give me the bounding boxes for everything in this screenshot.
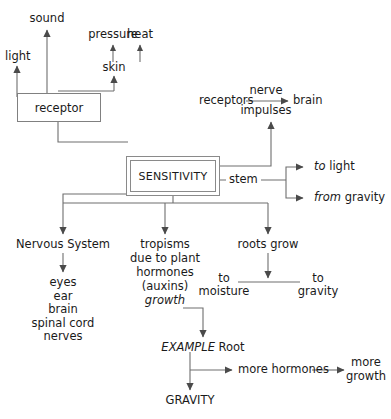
label-nerve: nerve — [250, 84, 283, 98]
label-nervous-parts: eyes ear brain spinal cord nerves — [3, 276, 123, 344]
label-skin: skin — [102, 61, 125, 75]
receptor-box: receptor — [17, 93, 101, 122]
to-light-rest: light — [329, 159, 355, 173]
label-heat: heat — [127, 28, 153, 42]
example-rest: Root — [219, 340, 245, 354]
sensitivity-concept-map: sound light pressure heat skin receptor … — [0, 0, 391, 419]
label-roots-grow: roots grow — [238, 238, 299, 252]
label-nervous-system: Nervous System — [16, 238, 110, 252]
nervous-part-eyes: eyes — [3, 276, 123, 290]
label-example-root: EXAMPLE Root — [161, 341, 244, 355]
label-from-gravity: from gravity — [314, 191, 385, 205]
sensitivity-box: SENSITIVITY — [126, 156, 220, 196]
label-stem: stem — [226, 172, 261, 186]
from-gravity-rest: gravity — [345, 190, 385, 204]
label-more-growth-2: growth — [346, 370, 386, 384]
sensitivity-label: SENSITIVITY — [139, 170, 208, 183]
connector-lines — [0, 0, 391, 419]
nervous-part-spinal-cord: spinal cord — [3, 317, 123, 331]
label-gravity: GRAVITY — [166, 394, 215, 408]
label-more-hormones: more hormones — [238, 363, 329, 377]
label-tropisms-4: (auxins) — [142, 280, 189, 294]
label-tropisms-2: due to plant — [130, 252, 200, 266]
label-tropisms-growth: growth — [145, 294, 185, 308]
label-to-light: to light — [314, 160, 355, 174]
label-light: light — [5, 50, 31, 64]
label-more-growth-1: more — [351, 356, 381, 370]
example-em: EXAMPLE — [161, 340, 215, 354]
label-impulses: impulses — [240, 104, 291, 118]
sensitivity-inner: SENSITIVITY — [130, 160, 216, 192]
to-light-em: to — [314, 159, 326, 173]
nervous-part-brain: brain — [3, 303, 123, 317]
label-to-moisture-2: moisture — [199, 285, 250, 299]
label-tropisms-3: hormones — [136, 266, 193, 280]
label-tropisms: tropisms — [140, 238, 190, 252]
nervous-part-ear: ear — [3, 290, 123, 304]
label-to-gravity-2: gravity — [298, 285, 338, 299]
label-brain: brain — [293, 94, 323, 108]
receptor-label: receptor — [35, 101, 84, 115]
nervous-part-nerves: nerves — [3, 330, 123, 344]
label-sound: sound — [30, 12, 65, 26]
from-gravity-em: from — [314, 190, 341, 204]
